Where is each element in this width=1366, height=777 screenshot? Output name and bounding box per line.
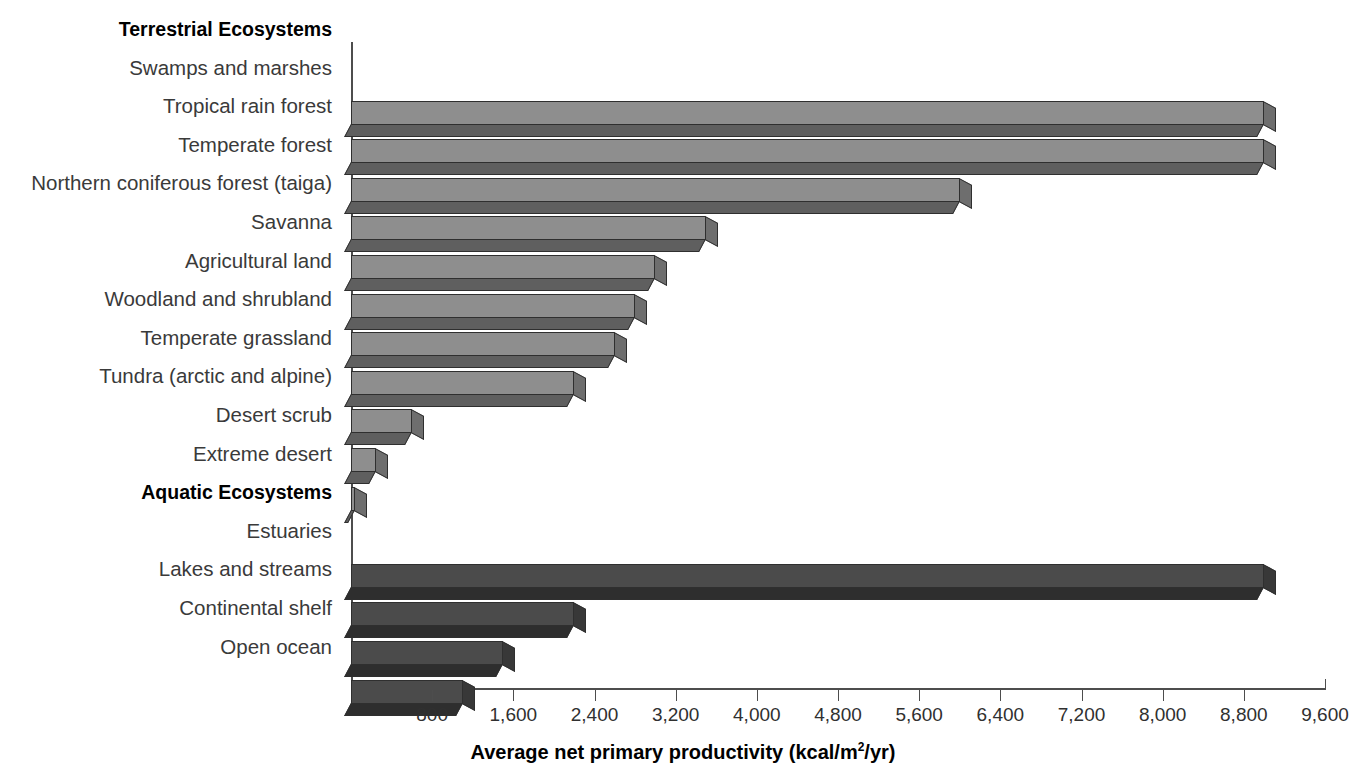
bar-side-face	[354, 487, 367, 518]
bar-front-face	[351, 139, 1264, 163]
bar-savanna	[351, 255, 655, 279]
x-axis-title-main: Average net primary productivity (kcal/m	[471, 741, 858, 763]
group-header-label: Terrestrial Ecosystems	[0, 18, 332, 40]
bar-bottom-face	[344, 201, 960, 214]
bar-woodland-and-shrubland	[351, 332, 615, 356]
bar-temperate-forest	[351, 178, 960, 202]
category-label: Woodland and shrubland	[0, 288, 332, 310]
category-label: Estuaries	[0, 520, 332, 542]
x-axis-tick	[1244, 690, 1245, 701]
bar-swamps-and-marshes	[351, 101, 1264, 125]
bar-bottom-face	[344, 432, 412, 445]
bar-bottom-face	[344, 587, 1264, 600]
x-axis-tick	[1163, 690, 1164, 701]
x-axis-tick-label: 8,800	[1220, 704, 1268, 726]
bar-extreme-desert	[351, 487, 355, 511]
bar-tundra-arctic-and-alpine	[351, 409, 412, 433]
bar-front-face	[351, 602, 574, 626]
bar-bottom-face	[344, 124, 1264, 137]
bar-front-face	[351, 680, 463, 704]
bar-side-face	[462, 680, 475, 711]
x-axis-tick	[1325, 679, 1326, 690]
bar-estuaries	[351, 564, 1264, 588]
bar-front-face	[351, 409, 412, 433]
productivity-bar-chart: Terrestrial EcosystemsSwamps and marshes…	[0, 0, 1366, 777]
bar-side-face	[573, 371, 586, 402]
bar-side-face	[614, 332, 627, 363]
bar-front-face	[351, 641, 503, 665]
bar-front-face	[351, 101, 1264, 125]
bar-side-face	[411, 409, 424, 440]
category-label: Temperate grassland	[0, 327, 332, 349]
x-axis-tick	[1082, 690, 1083, 701]
bar-front-face	[351, 564, 1264, 588]
x-axis-title: Average net primary productivity (kcal/m…	[0, 740, 1366, 764]
category-label: Swamps and marshes	[0, 57, 332, 79]
category-label: Tropical rain forest	[0, 95, 332, 117]
bar-side-face	[573, 602, 586, 633]
x-axis-tick-label: 4,000	[733, 704, 781, 726]
category-label: Savanna	[0, 211, 332, 233]
x-axis-tick-label: 5,600	[895, 704, 943, 726]
bar-front-face	[351, 332, 615, 356]
category-label: Temperate forest	[0, 134, 332, 156]
bar-open-ocean	[351, 680, 463, 704]
bar-bottom-face	[344, 625, 574, 638]
bar-bottom-face	[344, 317, 635, 330]
bar-bottom-face	[344, 471, 376, 484]
category-label: Lakes and streams	[0, 558, 332, 580]
bar-northern-coniferous-forest-taiga	[351, 216, 706, 240]
x-axis-tick-label: 3,200	[652, 704, 700, 726]
category-label: Agricultural land	[0, 250, 332, 272]
category-label: Northern coniferous forest (taiga)	[0, 172, 332, 194]
bar-temperate-grassland	[351, 371, 574, 395]
x-axis-tick	[1000, 690, 1001, 701]
x-axis-tick-label: 6,400	[977, 704, 1025, 726]
bar-side-face	[634, 294, 647, 325]
bar-side-face	[705, 216, 718, 247]
bar-bottom-face	[344, 510, 355, 523]
category-label: Extreme desert	[0, 443, 332, 465]
x-axis-tick-label: 1,600	[490, 704, 538, 726]
bar-side-face	[375, 448, 388, 479]
x-axis-tick-label: 800	[416, 704, 448, 726]
x-axis-tick	[676, 690, 677, 701]
category-label: Tundra (arctic and alpine)	[0, 365, 332, 387]
bar-front-face	[351, 371, 574, 395]
x-axis-tick-label: 9,600	[1301, 704, 1349, 726]
bar-bottom-face	[344, 278, 655, 291]
x-axis-tick-label: 7,200	[1058, 704, 1106, 726]
bar-desert-scrub	[351, 448, 376, 472]
x-axis-tick	[838, 690, 839, 701]
bar-bottom-face	[344, 239, 706, 252]
bar-tropical-rain-forest	[351, 139, 1264, 163]
group-header-label: Aquatic Ecosystems	[0, 481, 332, 503]
x-axis-tick	[432, 690, 433, 701]
category-label: Open ocean	[0, 636, 332, 658]
bar-front-face	[351, 255, 655, 279]
category-label: Desert scrub	[0, 404, 332, 426]
x-axis-tick	[757, 690, 758, 701]
x-axis-tick-label: 4,800	[814, 704, 862, 726]
bar-side-face	[1263, 101, 1276, 132]
x-axis-tick-label: 8,000	[1139, 704, 1187, 726]
bar-front-face	[351, 294, 635, 318]
bar-front-face	[351, 216, 706, 240]
category-label: Continental shelf	[0, 597, 332, 619]
bar-bottom-face	[344, 162, 1264, 175]
bar-side-face	[959, 178, 972, 209]
bar-bottom-face	[344, 664, 503, 677]
bar-lakes-and-streams	[351, 602, 574, 626]
bar-side-face	[654, 255, 667, 286]
bar-bottom-face	[344, 355, 615, 368]
bar-side-face	[1263, 139, 1276, 170]
bar-front-face	[351, 448, 376, 472]
bar-bottom-face	[344, 394, 574, 407]
bar-side-face	[1263, 564, 1276, 595]
x-axis-tick	[513, 690, 514, 701]
x-axis-tick	[595, 690, 596, 701]
bar-agricultural-land	[351, 294, 635, 318]
bar-front-face	[351, 178, 960, 202]
bar-side-face	[502, 641, 515, 672]
x-axis-title-tail: /yr)	[864, 741, 895, 763]
